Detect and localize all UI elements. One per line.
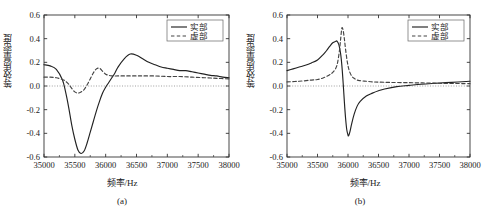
y-axis-tick-label: 0.0 [29, 81, 40, 91]
y-axis-tick-label: 0.4 [272, 34, 283, 44]
legend-label: 虚部 [431, 31, 449, 41]
y-axis-tick-label: 0.0 [272, 81, 283, 91]
y-axis-tick-label: 0.2 [272, 57, 283, 67]
y-axis-tick-label: -0.2 [27, 105, 40, 115]
x-axis-label-a: 频率/Hz [0, 176, 244, 189]
chart-panel-a: 350003550036000365003700037500380000.60.… [0, 0, 244, 214]
x-axis-tick-label: 37000 [157, 160, 178, 170]
y-axis-tick-label: 0.2 [29, 57, 40, 67]
x-axis-tick-label: 37500 [188, 160, 209, 170]
x-axis-label-b: 频率/Hz [243, 176, 487, 189]
panel-caption-a: (a) [10, 196, 234, 206]
x-axis-tick-label: 38000 [459, 160, 480, 170]
x-axis-tick-label: 37500 [429, 160, 450, 170]
x-axis-tick-label: 38000 [218, 160, 239, 170]
x-axis-tick-label: 35500 [64, 160, 85, 170]
x-axis-tick-label: 37000 [398, 160, 419, 170]
series-line-real [287, 41, 470, 136]
y-axis-tick-label: -0.6 [270, 152, 283, 162]
y-axis-tick-label: -0.6 [27, 152, 40, 162]
legend-label: 虚部 [190, 31, 208, 41]
y-axis-tick-label: 0.4 [29, 34, 40, 44]
x-axis-tick-label: 36000 [337, 160, 358, 170]
series-line-real [44, 54, 229, 154]
figure-root: 350003550036000365003700037500380000.60.… [0, 0, 487, 214]
y-axis-tick-label: -0.4 [27, 128, 41, 138]
x-axis-tick-label: 36500 [126, 160, 147, 170]
panel-caption-b: (b) [243, 196, 477, 206]
chart-panel-b: 350003550036000365003700037500380000.60.… [243, 0, 487, 214]
series-line-imaginary [44, 68, 229, 93]
y-axis-tick-label: -0.4 [270, 128, 284, 138]
y-axis-tick-label: 0.6 [272, 10, 283, 20]
y-axis-label-a: 等效质量密度 [3, 34, 12, 88]
y-axis-label-b: 等效质量密度 [246, 34, 255, 88]
y-axis-tick-label: -0.2 [270, 105, 283, 115]
y-axis-tick-label: 0.6 [29, 10, 40, 20]
x-axis-tick-label: 36500 [368, 160, 389, 170]
x-axis-tick-label: 35500 [307, 160, 328, 170]
x-axis-tick-label: 36000 [95, 160, 116, 170]
